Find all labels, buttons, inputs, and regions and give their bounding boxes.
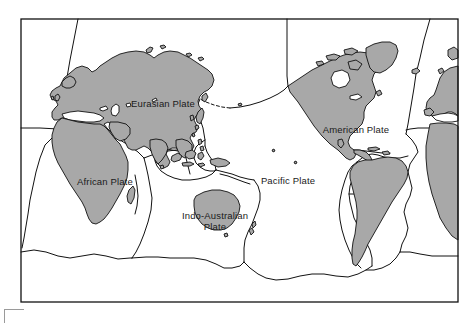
corner-bracket-mark	[4, 309, 24, 323]
land-pacific-islet-a	[272, 149, 275, 152]
land-sri-lanka	[160, 165, 164, 169]
world-map-svg	[0, 0, 475, 327]
land-hispaniola	[382, 151, 390, 155]
land-tasmania	[224, 233, 228, 237]
land-ireland	[51, 96, 54, 100]
land-pacific-islet-b	[294, 161, 297, 164]
land-java	[182, 162, 194, 166]
land-scandinavia-wrap-right	[448, 47, 458, 60]
land-philippines-b	[200, 146, 204, 151]
land-taiwan	[192, 133, 195, 137]
water-aral-sea	[126, 103, 131, 107]
land-borneo	[185, 150, 196, 159]
land-aleutian-islets	[238, 103, 242, 106]
tectonic-plates-figure: Eurasian Plate American Plate African Pl…	[0, 0, 475, 327]
